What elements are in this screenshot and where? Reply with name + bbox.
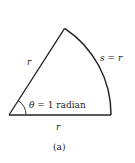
- side-bottom-label: r: [56, 122, 61, 132]
- figure-caption: (a): [53, 142, 65, 152]
- sector-diagram: r s = r θ = 1 radian r (a): [0, 0, 135, 163]
- arc-label: s = r: [100, 53, 123, 63]
- angle-mark: [18, 101, 26, 115]
- side-left-label: r: [27, 57, 32, 67]
- angle-value: = 1 radian: [34, 100, 86, 110]
- arc-label-text: s = r: [100, 53, 123, 63]
- angle-label: θ = 1 radian: [29, 100, 86, 110]
